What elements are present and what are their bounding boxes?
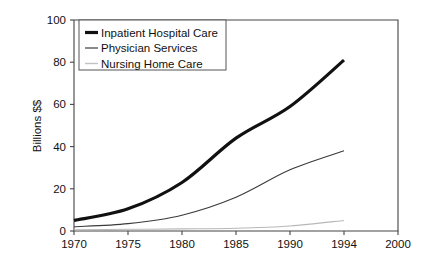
x-tick-label: 1980 xyxy=(169,238,195,250)
y-axis-ticks: 020406080100 xyxy=(47,14,74,237)
y-tick-label: 0 xyxy=(60,225,66,237)
y-tick-label: 80 xyxy=(53,56,66,68)
y-tick-label: 60 xyxy=(53,98,66,110)
x-tick-label: 1975 xyxy=(115,238,141,250)
legend-item-physician-services: Physician Services xyxy=(85,42,198,54)
y-tick-label: 100 xyxy=(47,14,66,26)
legend-label-inpatient-hospital-care: Inpatient Hospital Care xyxy=(101,27,218,39)
chart-legend: Inpatient Hospital Care Physician Servic… xyxy=(79,20,226,70)
series-group xyxy=(74,60,344,230)
legend-item-nursing-home-care: Nursing Home Care xyxy=(85,58,203,70)
x-tick-label: 2000 xyxy=(385,238,411,250)
x-tick-label: 1985 xyxy=(223,238,249,250)
x-tick-label: 1994 xyxy=(331,238,357,250)
series-line-inpatient-hospital-care xyxy=(74,60,344,220)
x-tick-label: 1970 xyxy=(61,238,87,250)
y-tick-label: 20 xyxy=(53,183,66,195)
x-axis-ticks: 1970197519801985199019942000 xyxy=(61,231,411,250)
x-tick-label: 1990 xyxy=(277,238,303,250)
y-tick-label: 40 xyxy=(53,141,66,153)
y-axis-title: Billions $$ xyxy=(31,99,43,152)
legend-label-nursing-home-care: Nursing Home Care xyxy=(101,58,203,70)
legend-label-physician-services: Physician Services xyxy=(101,42,198,54)
legend-item-inpatient-hospital-care: Inpatient Hospital Care xyxy=(85,27,218,39)
line-chart: 020406080100 197019751980198519901994200… xyxy=(0,0,425,269)
chart-container: 020406080100 197019751980198519901994200… xyxy=(0,0,425,269)
